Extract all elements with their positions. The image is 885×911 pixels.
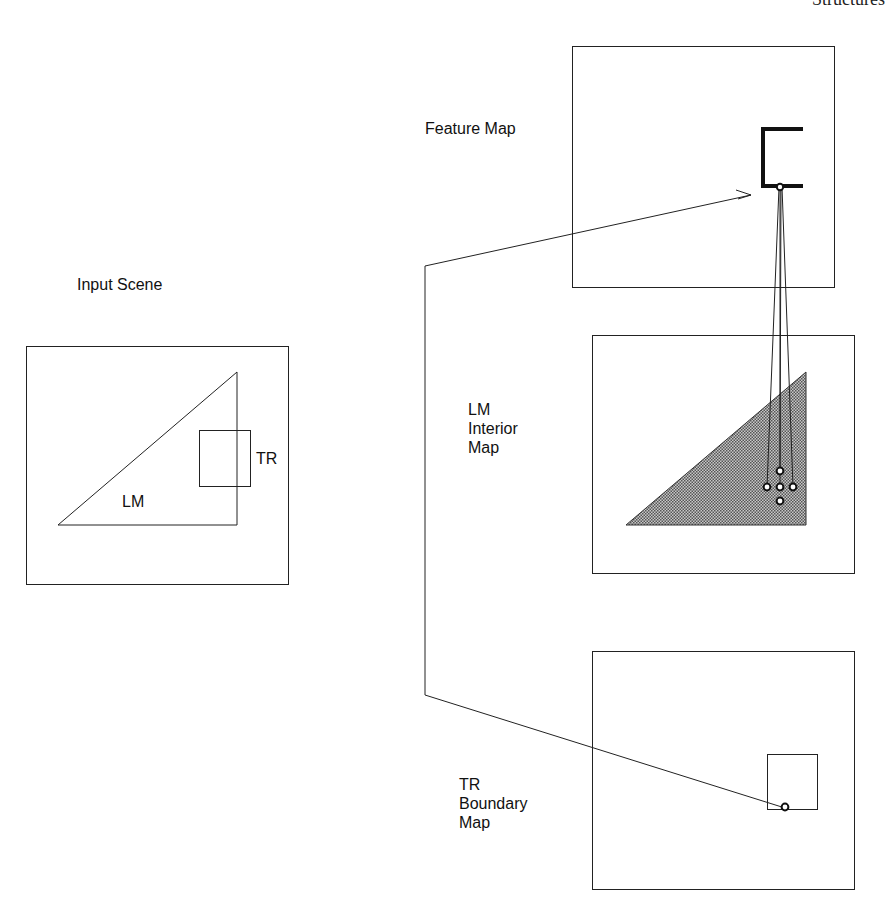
lm-triangle xyxy=(58,372,237,525)
tr-boundary-map xyxy=(593,652,855,890)
lm-node-top xyxy=(777,468,784,475)
feature-map-title: Feature Map xyxy=(425,119,516,138)
feature-map-frame xyxy=(573,47,835,288)
lm-node-right xyxy=(790,484,797,491)
lm-interior-map-title: LM Interior Map xyxy=(468,400,518,457)
tr-label: TR xyxy=(256,449,277,468)
title-line: TR xyxy=(459,775,528,794)
tr-boundary-node xyxy=(782,804,789,811)
bracket-feature xyxy=(763,129,803,186)
tr-boundary-map-frame xyxy=(593,652,855,890)
title-line: LM xyxy=(468,400,518,419)
input-scene-frame xyxy=(27,347,289,585)
title-line: Map xyxy=(459,813,528,832)
lm-node-bottom xyxy=(777,498,784,505)
tr-boundary-square xyxy=(768,755,818,810)
title-line: Interior xyxy=(468,419,518,438)
lm-node-left xyxy=(764,484,771,491)
input-scene-title: Input Scene xyxy=(77,275,162,294)
feature-map xyxy=(573,47,835,288)
input-scene xyxy=(27,347,289,585)
feature-node xyxy=(777,184,783,190)
lm-interior-map xyxy=(593,336,855,574)
tr-boundary-map-title: TR Boundary Map xyxy=(459,775,528,832)
tr-square xyxy=(200,431,251,487)
title-line: Boundary xyxy=(459,794,528,813)
lm-label: LM xyxy=(122,492,144,511)
title-line: Map xyxy=(468,438,518,457)
lm-node-center xyxy=(777,484,784,491)
